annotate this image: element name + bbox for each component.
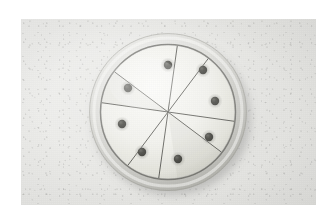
dish-illustration [21, 19, 316, 205]
seed-dot [134, 144, 149, 159]
seed-dot [195, 62, 210, 77]
contents-sheen [109, 57, 181, 109]
seed-dot [207, 93, 222, 108]
seed-dot [170, 151, 185, 166]
photograph [21, 19, 316, 205]
seed-dot [201, 129, 216, 144]
page-canvas [0, 0, 336, 223]
seed-dot [114, 116, 129, 131]
